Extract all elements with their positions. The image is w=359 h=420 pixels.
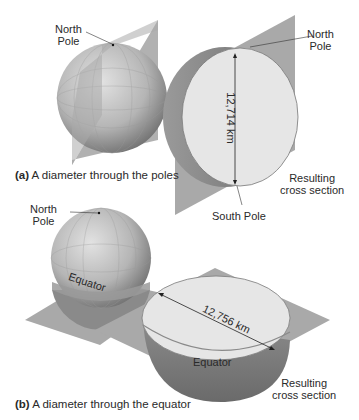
label-line: North [55, 23, 82, 35]
label-line: Resulting [280, 172, 344, 184]
caption-b: (b) A diameter through the equator [15, 398, 191, 410]
label-line: cross section [280, 184, 344, 196]
south-pole-label: South Pole [212, 210, 266, 222]
label-line: Pole [30, 215, 57, 227]
label-line: North [307, 28, 334, 40]
label-line: Resulting [272, 377, 336, 389]
caption-text: A diameter through the poles [29, 169, 179, 181]
equator-label-section: Equator [193, 356, 232, 368]
caption-a: (a) A diameter through the poles [15, 169, 179, 181]
label-line: Pole [55, 35, 82, 47]
label-line: Pole [307, 40, 334, 52]
label-line: North [30, 203, 57, 215]
caption-text: A diameter through the equator [30, 398, 191, 410]
north-pole-label-a-left: North Pole [55, 23, 82, 47]
label-line: cross section [272, 389, 336, 401]
diameter-label-a: 12,714 km [225, 92, 237, 143]
caption-letter: (a) [15, 169, 29, 181]
result-label-b: Resulting cross section [272, 377, 336, 401]
north-pole-label-b: North Pole [30, 203, 57, 227]
north-pole-label-a-right: North Pole [307, 28, 334, 52]
result-label-a: Resulting cross section [280, 172, 344, 196]
caption-letter: (b) [15, 398, 30, 410]
